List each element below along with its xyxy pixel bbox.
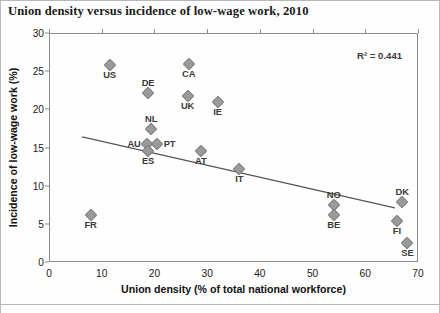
x-tick-mark [102,29,103,33]
y-tick-label: 0 [38,257,44,268]
data-point-label: CA [182,68,195,79]
data-point-label: AT [195,155,207,166]
data-point-label: DK [396,186,409,197]
data-point-label: NL [145,113,157,124]
x-tick-label: 20 [149,268,160,279]
data-point-label: BE [327,219,340,230]
y-tick-label: 10 [33,180,44,191]
y-tick-mark [45,185,49,186]
y-tick-mark [45,223,49,224]
data-point-label: FR [84,219,96,230]
data-point-label: DE [142,77,155,88]
x-tick-mark [154,29,155,33]
x-tick-label: 40 [254,268,265,279]
y-tick-mark [45,262,49,263]
figure-border-bottom [0,304,440,305]
x-tick-label: 30 [201,268,212,279]
r-squared-annotation: R² = 0.441 [357,50,402,61]
x-tick-mark [418,29,419,33]
data-point-label: FI [393,225,401,236]
data-point [396,196,409,209]
data-point-label: US [103,69,116,80]
y-tick-mark [45,109,49,110]
scatter-plot-layer: 051015202530 010203040506070 USDECAUKIEN… [49,33,418,262]
y-tick-mark [45,71,49,72]
y-tick-label: 25 [33,66,44,77]
x-tick-label: 70 [412,268,423,279]
y-tick-label: 20 [33,104,44,115]
x-tick-mark [260,29,261,33]
y-tick-label: 30 [33,28,44,39]
data-point [145,123,158,136]
data-point-label: AU [127,138,140,149]
data-point-label: IT [235,173,243,184]
figure-border-left [0,0,1,313]
x-tick-mark [207,29,208,33]
figure-border-top [0,0,440,1]
x-tick-mark [313,29,314,33]
y-tick-label: 5 [38,218,44,229]
data-point [142,87,155,100]
x-tick-label: 50 [307,268,318,279]
data-point-label: NO [327,189,341,200]
y-axis-label: Incidence of low-wage work (%) [6,33,20,262]
data-point-label: PT [164,138,176,149]
y-tick-label: 15 [33,142,44,153]
x-tick-label: 60 [360,268,371,279]
x-tick-mark [49,29,50,33]
page-title: Union density versus incidence of low-wa… [8,4,309,19]
chart-figure: Union density versus incidence of low-wa… [0,0,440,313]
data-point-label: UK [181,100,194,111]
y-tick-mark [45,147,49,148]
data-point-label: ES [142,155,154,166]
data-point-label: IE [213,106,222,117]
r-squared-text: R² = 0.441 [357,50,402,61]
x-axis-label: Union density (% of total national workf… [49,283,418,295]
x-tick-mark [365,29,366,33]
x-tick-label: 10 [96,268,107,279]
x-tick-label: 0 [46,268,52,279]
data-point-label: SE [401,247,413,258]
